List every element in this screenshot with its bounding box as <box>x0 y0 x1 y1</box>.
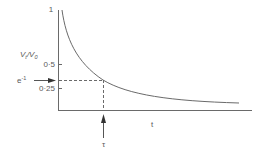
e-inverse-arrow-icon <box>48 78 56 83</box>
y-axis-label: Vt/V0 <box>20 50 38 60</box>
tau-arrow-icon <box>101 114 106 123</box>
ytick-label-0.5: 0·5 <box>43 60 55 69</box>
decay-curve <box>62 10 239 103</box>
decay-chart: 1 0·5 0·25 Vt/V0 e-1 τ t <box>0 0 259 153</box>
e-inverse-label: e-1 <box>17 75 26 85</box>
ytick-label-0.25: 0·25 <box>39 84 56 93</box>
ytick-label-1: 1 <box>49 5 54 14</box>
tau-label: τ <box>102 140 106 149</box>
x-axis-label: t <box>151 120 154 129</box>
